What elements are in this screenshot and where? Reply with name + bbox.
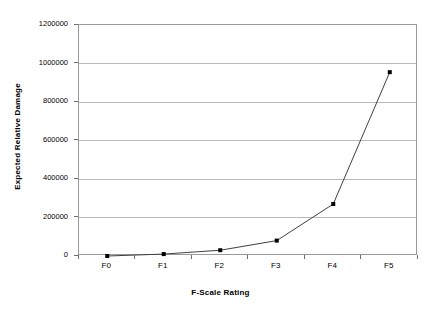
y-axis-tick-label: 1200000 (0, 19, 74, 28)
x-axis-tick-mark (304, 255, 305, 259)
gridline (79, 179, 416, 180)
y-axis-tick-label: 200000 (0, 212, 74, 221)
x-axis-tick-mark (247, 255, 248, 259)
chart-container: 020000040000060000080000010000001200000 … (0, 0, 441, 313)
x-axis-tick-label: F2 (199, 261, 239, 270)
series-line (107, 72, 390, 256)
data-point-marker (331, 202, 335, 206)
y-axis-tick-label: 600000 (0, 135, 74, 144)
gridline (79, 63, 416, 64)
y-axis-tick-label: 1000000 (0, 58, 74, 67)
y-axis-tick-label: 400000 (0, 173, 74, 182)
plot-area (78, 24, 417, 255)
data-point-marker (275, 239, 279, 243)
x-axis-tick-label: F5 (369, 261, 409, 270)
gridline (79, 217, 416, 218)
y-axis-tick-label: 0 (0, 250, 74, 259)
data-point-marker (218, 248, 222, 252)
series-marker-group (105, 70, 392, 258)
x-axis-tick-mark (360, 255, 361, 259)
data-point-marker (162, 252, 166, 256)
x-axis-tick-mark (78, 255, 79, 259)
y-axis-tick-label: 800000 (0, 96, 74, 105)
x-axis-tick-label: F3 (256, 261, 296, 270)
y-axis-title: Expected Relative Damage (13, 57, 22, 217)
x-axis-tick-mark (191, 255, 192, 259)
x-axis-tick-label: F1 (143, 261, 183, 270)
x-axis-tick-label: F0 (86, 261, 126, 270)
x-axis-tick-mark (417, 255, 418, 259)
x-axis-tick-label: F4 (312, 261, 352, 270)
gridline (79, 102, 416, 103)
data-point-marker (105, 254, 109, 258)
x-axis-tick-mark (134, 255, 135, 259)
data-point-marker (388, 70, 392, 74)
x-axis-title: F-Scale Rating (0, 288, 441, 297)
gridline (79, 140, 416, 141)
